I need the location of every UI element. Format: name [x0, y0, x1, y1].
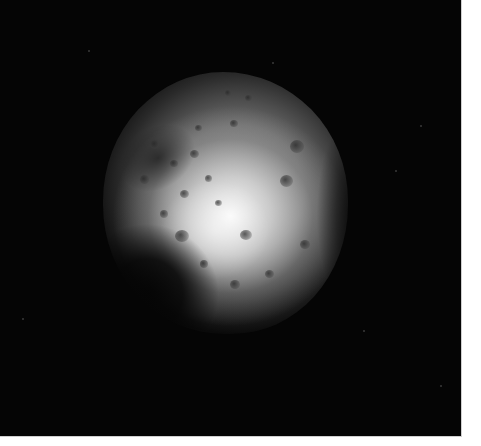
crater	[240, 230, 252, 240]
star	[440, 385, 442, 387]
star	[88, 50, 90, 52]
star	[363, 330, 365, 332]
crater	[170, 160, 178, 167]
star	[420, 125, 422, 127]
crater	[150, 140, 160, 149]
star	[395, 170, 397, 172]
crater	[245, 95, 252, 101]
crater	[190, 150, 199, 158]
crater	[180, 190, 189, 198]
moon-terminator	[270, 80, 380, 350]
photo-frame	[0, 0, 462, 437]
star	[22, 318, 24, 320]
crater	[230, 120, 238, 127]
star	[272, 62, 274, 64]
crater	[265, 270, 274, 278]
crater	[230, 280, 240, 289]
moon-shadow	[95, 210, 225, 350]
crater	[225, 90, 231, 96]
crater	[215, 200, 222, 206]
crater	[140, 175, 149, 184]
crater	[205, 175, 212, 182]
crater	[195, 125, 202, 131]
